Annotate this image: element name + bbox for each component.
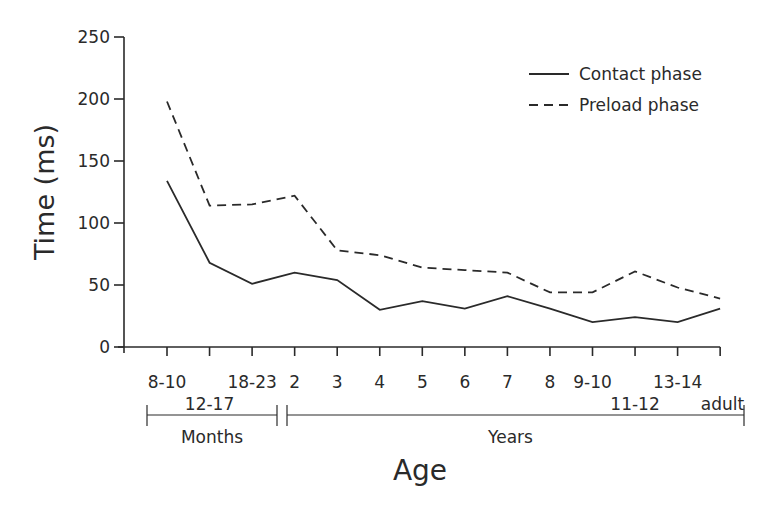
x-axis-title: Age: [393, 454, 447, 487]
y-tick-label: 200: [78, 89, 110, 109]
x-tick-label: 18-23: [227, 372, 276, 392]
x-axis: 8-1012-1718-2323456789-1011-1213-14adult: [118, 347, 744, 414]
x-tick-label: 6: [459, 372, 470, 392]
group-label: Months: [181, 427, 243, 447]
x-tick-label: 9-10: [573, 372, 612, 392]
group-label: Years: [487, 427, 533, 447]
x-tick-label: 4: [374, 372, 385, 392]
y-axis: 050100150200250: [78, 27, 124, 357]
x-tick-label: 8-10: [148, 372, 187, 392]
line-chart: 050100150200250 8-1012-1718-2323456789-1…: [0, 0, 776, 521]
series-line-contact: [167, 181, 720, 322]
legend-label: Contact phase: [579, 64, 702, 84]
x-tick-label: 2: [289, 372, 300, 392]
y-tick-label: 0: [99, 337, 110, 357]
y-tick-label: 100: [78, 213, 110, 233]
legend-item: Contact phase: [529, 64, 702, 84]
x-tick-label: 8: [545, 372, 556, 392]
y-axis-title: Time (ms): [29, 124, 60, 261]
x-tick-label: 5: [417, 372, 428, 392]
x-tick-label: adult: [701, 394, 745, 414]
x-tick-label: 11-12: [610, 394, 659, 414]
legend-item: Preload phase: [529, 95, 699, 115]
group-bracket-years: Years: [287, 405, 744, 447]
x-tick-label: 12-17: [185, 394, 234, 414]
y-tick-label: 250: [78, 27, 110, 47]
legend-label: Preload phase: [579, 95, 699, 115]
y-tick-label: 150: [78, 151, 110, 171]
series-line-preload: [167, 102, 720, 299]
x-tick-label: 3: [332, 372, 343, 392]
series-lines: [167, 102, 720, 323]
legend: Contact phasePreload phase: [529, 64, 702, 115]
x-tick-label: 7: [502, 372, 513, 392]
y-tick-label: 50: [88, 275, 110, 295]
x-tick-label: 13-14: [653, 372, 702, 392]
